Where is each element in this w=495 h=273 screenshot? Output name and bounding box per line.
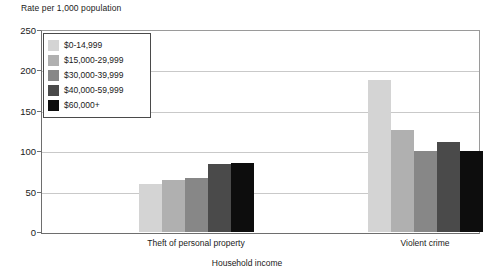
x-axis-title: Household income	[212, 258, 282, 268]
bar	[391, 130, 414, 232]
legend-label: $60,000+	[64, 100, 100, 111]
bar	[460, 151, 483, 232]
y-axis-tick-mark	[37, 192, 41, 193]
y-axis-tick-mark	[37, 70, 41, 71]
y-axis-tick-label: 250	[6, 25, 36, 36]
legend-item: $15,000-29,999	[48, 53, 145, 68]
bar	[368, 80, 391, 232]
x-axis-group-label: Violent crime	[401, 238, 450, 248]
y-axis-tick-label: 100	[6, 146, 36, 157]
y-axis-tick-labels: 050100150200250	[0, 30, 36, 232]
bar	[162, 180, 185, 232]
y-axis-tick-label: 50	[6, 186, 36, 197]
legend-swatch	[48, 100, 59, 111]
legend-label: $15,000-29,999	[64, 55, 124, 66]
legend-label: $30,000-39,999	[64, 70, 124, 81]
x-axis-group-label: Theft of personal property	[147, 238, 244, 248]
bar	[185, 178, 208, 232]
legend-swatch	[48, 70, 59, 81]
y-axis-tick-mark	[37, 111, 41, 112]
bar	[414, 151, 437, 232]
legend-swatch	[48, 55, 59, 66]
legend-item: $30,000-39,999	[48, 68, 145, 83]
legend-item: $60,000+	[48, 98, 145, 113]
y-axis-tick-mark	[37, 30, 41, 31]
bar	[231, 163, 254, 232]
y-axis-title: Rate per 1,000 population	[21, 3, 121, 13]
y-axis-tick-mark	[37, 232, 41, 233]
legend-label: $40,000-59,999	[64, 85, 124, 96]
legend: $0-14,999$15,000-29,999$30,000-39,999$40…	[43, 33, 151, 118]
bar-chart: Rate per 1,000 population 05010015020025…	[0, 0, 495, 273]
legend-item: $40,000-59,999	[48, 83, 145, 98]
y-axis-tick-label: 200	[6, 65, 36, 76]
bar	[208, 164, 231, 232]
bar	[437, 142, 460, 232]
legend-swatch	[48, 85, 59, 96]
y-axis-tick-label: 150	[6, 105, 36, 116]
y-axis-tick-label: 0	[6, 227, 36, 238]
legend-label: $0-14,999	[64, 40, 102, 51]
y-axis-tick-mark	[37, 151, 41, 152]
bar	[139, 184, 162, 232]
legend-item: $0-14,999	[48, 38, 145, 53]
legend-swatch	[48, 40, 59, 51]
